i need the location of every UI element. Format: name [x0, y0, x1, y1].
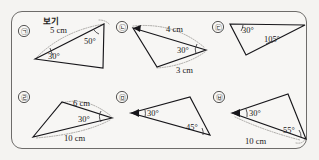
panel-legend-label: 보기 [38, 16, 64, 26]
example-panel: 보기 [11, 11, 307, 149]
figure-root: 보기 5 cm 50° 30° ㉠ 4 cm 30° 3 cm [0, 0, 319, 160]
top-margin-strip [0, 0, 319, 9]
